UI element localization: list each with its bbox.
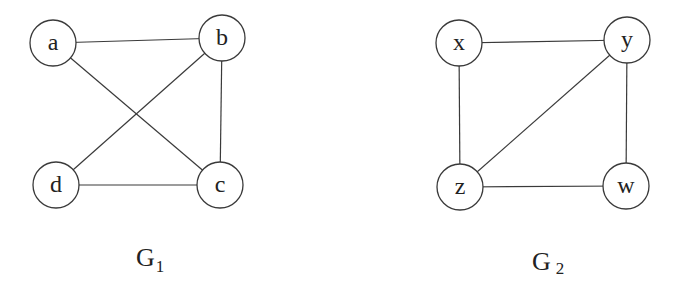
node-label: w (617, 172, 635, 198)
node-label: a (48, 29, 59, 55)
node-y: y (604, 17, 650, 63)
node-label: c (215, 171, 226, 197)
graph-title-g1: G1 (136, 243, 164, 276)
node-b: b (199, 15, 245, 61)
node-c: c (197, 162, 243, 208)
nodes: abdc (30, 15, 245, 208)
graph-title-g2: G2 (532, 247, 564, 278)
edges (53, 38, 222, 185)
edge-a-b (53, 38, 222, 43)
edges (459, 40, 627, 187)
node-label: d (50, 171, 62, 197)
edge-x-y (459, 40, 627, 43)
node-label: x (453, 29, 465, 55)
node-x: x (436, 20, 482, 66)
node-label: z (455, 173, 466, 199)
node-label: y (621, 26, 633, 52)
node-z: z (437, 164, 483, 210)
graph-g2: xyzw G2 (436, 17, 650, 278)
graph-diagram: abdc G1 xyzw G2 (0, 0, 679, 293)
graph-g1: abdc G1 (30, 15, 245, 276)
edge-b-d (56, 38, 222, 185)
node-d: d (33, 162, 79, 208)
edge-y-z (460, 40, 627, 187)
node-a: a (30, 20, 76, 66)
node-label: b (216, 24, 228, 50)
edge-z-w (460, 186, 626, 187)
node-w: w (603, 163, 649, 209)
